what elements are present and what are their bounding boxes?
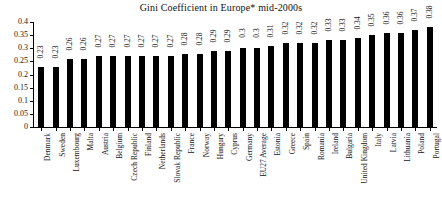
y-axis-tick-label: 0.25: [14, 55, 28, 66]
x-axis-tick-mark: [271, 128, 272, 131]
bar-group: 0.33: [336, 22, 350, 127]
bar-group: 0.36: [379, 22, 393, 127]
y-axis-tick-label: 0.3: [18, 42, 28, 53]
y-axis-tick-label: 0: [24, 121, 28, 132]
bar: [53, 67, 59, 127]
x-axis-category-label: Ireland: [332, 133, 340, 154]
bar-group: 0.27: [135, 22, 149, 127]
bar-value-label: 0.33: [339, 19, 347, 32]
bar-group: 0.29: [207, 22, 221, 127]
bar: [38, 67, 44, 127]
bar-value-label: 0.27: [109, 35, 117, 48]
bar-group: 0.3: [236, 22, 250, 127]
x-axis-category-label: Malta: [87, 133, 95, 151]
bar-group: 0.26: [63, 22, 77, 127]
bar: [225, 51, 231, 127]
bar-value-label: 0.36: [397, 11, 405, 24]
x-axis-tick-mark: [387, 128, 388, 131]
x-axis-tick-mark: [430, 128, 431, 131]
x-axis-tick-mark: [171, 128, 172, 131]
bar-value-label: 0.33: [325, 19, 333, 32]
y-axis-tick: 0.05: [0, 114, 34, 115]
bar: [283, 43, 289, 127]
bar-value-label: 0.32: [296, 21, 304, 34]
x-axis-category-label: France: [188, 133, 196, 153]
x-axis-category-label: Austria: [102, 133, 110, 155]
bar: [168, 56, 174, 127]
x-axis-tick-mark: [142, 128, 143, 131]
bar: [312, 43, 318, 127]
x-axis-category-label: Sweden: [59, 133, 67, 157]
bar: [139, 56, 145, 127]
x-axis-tick-mark: [128, 128, 129, 131]
x-axis-tick-mark: [84, 128, 85, 131]
x-axis-tick-mark: [329, 128, 330, 131]
y-axis-tick-mark: [30, 127, 34, 128]
bar-value-label: 0.34: [354, 16, 362, 29]
bar-group: 0.27: [149, 22, 163, 127]
bar: [297, 43, 303, 127]
bar-value-label: 0.28: [196, 32, 204, 45]
bar-group: 0.38: [423, 22, 437, 127]
bar-value-label: 0.3: [253, 29, 261, 38]
bar: [81, 59, 87, 127]
bar-group: 0.23: [34, 22, 48, 127]
bar-group: 0.37: [408, 22, 422, 127]
x-axis-tick-mark: [214, 128, 215, 131]
bar-value-label: 0.23: [37, 45, 45, 58]
bar: [67, 59, 73, 127]
x-axis-category-label: Luxembourg: [73, 133, 81, 172]
x-axis-category-label: EU27 Average: [260, 133, 268, 177]
bar: [268, 46, 274, 127]
bar-value-label: 0.35: [368, 14, 376, 27]
y-axis-tick: 0.3: [0, 48, 34, 49]
bar: [369, 35, 375, 127]
x-axis-tick-mark: [41, 128, 42, 131]
bar: [197, 54, 203, 128]
bar-group: 0.36: [394, 22, 408, 127]
bar: [427, 27, 433, 127]
bar: [355, 38, 361, 127]
x-axis-tick-mark: [257, 128, 258, 131]
x-axis-tick-mark: [156, 128, 157, 131]
bar-value-label: 0.27: [124, 35, 132, 48]
y-axis-tick: 0.4: [0, 22, 34, 23]
bar-group: 0.31: [264, 22, 278, 127]
bar: [96, 56, 102, 127]
x-axis-category-label: Romania: [318, 133, 326, 160]
x-axis-category-label: Poland: [418, 133, 426, 154]
bar-value-label: 0.29: [210, 29, 218, 42]
x-axis-tick-mark: [200, 128, 201, 131]
y-axis-tick-label: 0.35: [14, 29, 28, 40]
bar: [240, 48, 246, 127]
bar-value-label: 0.27: [138, 35, 146, 48]
x-axis-category-label: Cyprus: [231, 133, 239, 155]
x-axis-category-label: Norway: [203, 133, 211, 157]
x-axis-category-label: Hungary: [217, 133, 225, 159]
bar: [110, 56, 116, 127]
bar: [384, 33, 390, 128]
y-axis-tick: 0.2: [0, 75, 34, 76]
x-axis-line: [33, 127, 437, 128]
bar-value-label: 0.26: [66, 37, 74, 50]
x-axis-category-label: Germany: [246, 133, 254, 161]
x-axis-category-label: Latvia: [390, 133, 398, 152]
bar-value-label: 0.27: [95, 35, 103, 48]
bar-value-label: 0.3: [239, 29, 247, 38]
bar: [125, 56, 131, 127]
bar-group: 0.27: [164, 22, 178, 127]
bar: [153, 56, 159, 127]
bar-value-label: 0.26: [80, 37, 88, 50]
x-axis-category-label: Denmark: [44, 133, 52, 161]
bar-value-label: 0.38: [426, 6, 434, 19]
bar-value-label: 0.27: [152, 35, 160, 48]
bar: [254, 48, 260, 127]
plot-area: 0.230.230.260.260.270.270.270.270.270.27…: [34, 22, 437, 127]
x-axis-tick-mark: [243, 128, 244, 131]
bar-value-label: 0.29: [224, 29, 232, 42]
bar-group: 0.23: [48, 22, 62, 127]
bar-value-label: 0.32: [311, 21, 319, 34]
x-axis-category-label: Bulgaria: [346, 133, 354, 159]
y-axis-tick-label: 0.15: [14, 82, 28, 93]
bar-group: 0.27: [106, 22, 120, 127]
